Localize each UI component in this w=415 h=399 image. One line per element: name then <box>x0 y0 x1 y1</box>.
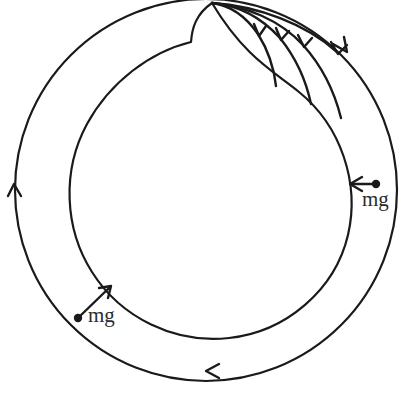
weight-label-right: mg <box>362 189 389 210</box>
diagram-vector-layer <box>0 0 415 399</box>
physics-diagram-canvas: mg mg <box>0 0 415 399</box>
outer-circular-path <box>15 0 397 381</box>
fan-curve-4 <box>212 3 337 52</box>
flow-arrowhead-bottom-left-icon <box>206 364 219 378</box>
flow-direction-group <box>8 37 347 378</box>
fan-arrowhead-1-icon <box>254 24 266 36</box>
fan-arrowhead-3-icon <box>298 35 312 47</box>
weight-label-lower-left: mg <box>88 305 115 326</box>
fan-curve-1-tail <box>258 34 276 86</box>
fan-curve-3-tail <box>303 45 341 118</box>
trajectory-fan-group <box>212 3 347 118</box>
